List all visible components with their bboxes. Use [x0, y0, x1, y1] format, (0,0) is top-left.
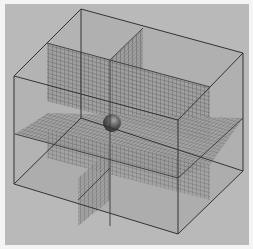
- sphere: [103, 114, 121, 132]
- figure-frame: [0, 0, 253, 249]
- box-diagram: [0, 0, 253, 249]
